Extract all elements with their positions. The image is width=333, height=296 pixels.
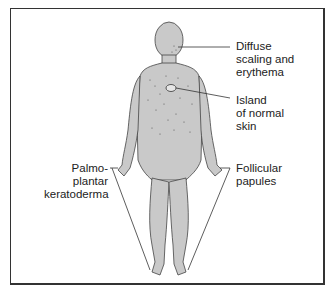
label-follicular-papules: Follicular papules (236, 162, 282, 188)
body-figure (118, 22, 222, 275)
label-diffuse-scaling: Diffuse scaling and erythema (236, 40, 294, 79)
label-island-normal-skin: Island of normal skin (236, 94, 284, 133)
island-marker (166, 85, 176, 92)
label-palmoplantar-keratoderma: Palmo- plantar keratoderma (44, 162, 108, 201)
